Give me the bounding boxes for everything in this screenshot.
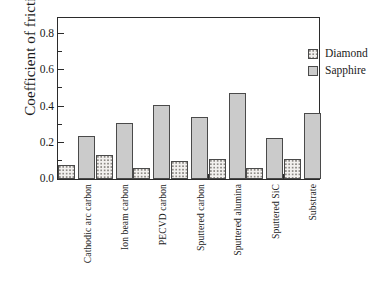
- y-axis-tick-label: 0.8: [40, 28, 54, 40]
- y-axis-title: Coefficient of friction: [19, 0, 41, 139]
- y-axis-tick-label: 0.2: [40, 137, 54, 149]
- y-axis-tick-major: 0.6: [58, 69, 64, 70]
- y-axis-tick-label: 0.4: [40, 101, 54, 113]
- y-axis-tick-minor: [58, 51, 62, 52]
- bar-diamond: [96, 155, 113, 179]
- y-axis-tick-label: 0.6: [40, 65, 54, 77]
- y-axis-tick-label: 0.0: [40, 173, 54, 185]
- y-axis-tick-minor: [58, 124, 62, 125]
- x-axis-category-label: Sputtered carbon: [194, 184, 207, 284]
- legend-label: Sapphire: [325, 65, 366, 77]
- y-axis-tick-major: 0.4: [58, 106, 64, 107]
- bar-sapphire: [153, 105, 170, 179]
- legend-swatch-diamond: [308, 49, 318, 59]
- bar-diamond: [171, 161, 188, 179]
- bar-sapphire: [229, 93, 246, 179]
- plot-area: 0.00.20.40.60.8 DiamondSapphire: [57, 17, 320, 180]
- y-axis-tick-minor: [58, 160, 62, 161]
- y-axis-tick-major: 0.2: [58, 142, 64, 143]
- bar-diamond: [58, 165, 75, 179]
- bar-diamond: [133, 168, 150, 179]
- x-axis-category-label: Ion beam carbon: [118, 184, 131, 284]
- bar-sapphire: [116, 123, 133, 179]
- bar-sapphire: [266, 138, 283, 179]
- bar-diamond: [284, 159, 301, 179]
- chart-legend: DiamondSapphire: [308, 45, 368, 79]
- bar-sapphire: [78, 136, 95, 179]
- x-axis-category-label: PECVD carbon: [156, 184, 169, 284]
- legend-item-sapphire: Sapphire: [308, 62, 368, 79]
- y-axis-tick-major: 0.8: [58, 33, 64, 34]
- x-axis-category-label: Substrate: [306, 184, 319, 284]
- bar-diamond: [209, 159, 226, 179]
- bar-sapphire: [191, 117, 208, 179]
- legend-swatch-sapphire: [308, 66, 318, 76]
- legend-item-diamond: Diamond: [308, 45, 368, 62]
- bar-diamond: [246, 168, 263, 179]
- x-axis-category-label: Sputtered SiC: [269, 184, 282, 284]
- x-axis-category-label: Sputtered alumina: [231, 184, 244, 284]
- y-axis-tick-minor: [58, 87, 62, 88]
- x-axis-category-label: Cathodic arc carbon: [81, 184, 94, 284]
- bar-sapphire: [304, 113, 321, 179]
- legend-label: Diamond: [325, 48, 368, 60]
